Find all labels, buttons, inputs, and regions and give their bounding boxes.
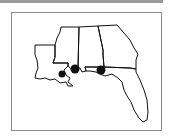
state-alabama xyxy=(78,26,104,72)
state-georgia xyxy=(98,25,138,69)
marker-dot-1 xyxy=(59,71,66,78)
state-florida xyxy=(85,67,148,122)
marker-dot-2 xyxy=(71,65,80,74)
state-louisiana xyxy=(35,45,73,86)
gulf-coast-map xyxy=(0,0,171,140)
state-mississippi xyxy=(53,27,79,69)
marker-dot-3 xyxy=(97,66,106,75)
